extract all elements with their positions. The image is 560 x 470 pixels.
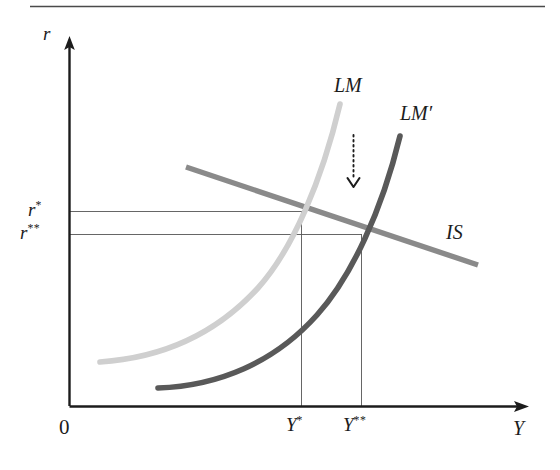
tick-label-y-star-star: Y** (343, 415, 366, 434)
curve-label-lm: LM (334, 75, 362, 95)
tick-label-r-star-star-superscript: ** (27, 222, 40, 235)
tick-label-y-star-star-base: Y (343, 414, 354, 435)
is-lm-diagram: r Y 0 r* r** Y* Y** LM LM′ IS (0, 0, 560, 470)
y-axis-label: r (43, 24, 50, 43)
curve-lm (100, 104, 340, 362)
origin-label: 0 (59, 417, 70, 438)
tick-label-r-star-star: r** (20, 223, 40, 242)
x-axis-label: Y (513, 418, 524, 438)
curve-label-lm-prime: LM′ (400, 103, 432, 123)
tick-label-r-star-superscript: * (35, 199, 41, 212)
curve-is (186, 167, 478, 265)
shift-arrow-head (348, 178, 360, 187)
tick-label-y-star-star-superscript: ** (354, 414, 367, 427)
tick-label-y-star: Y* (286, 415, 303, 434)
tick-label-y-star-base: Y (286, 414, 297, 435)
curve-label-is: IS (446, 222, 463, 242)
tick-label-y-star-superscript: * (297, 414, 303, 427)
tick-label-r-star: r* (28, 200, 42, 219)
diagram-canvas (0, 0, 560, 470)
